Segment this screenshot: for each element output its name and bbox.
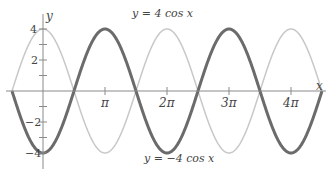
- x-tick-label-3pi: 3π: [221, 96, 238, 110]
- y-tick-label-neg4: −4: [25, 147, 41, 160]
- x-tick-label-2pi: 2π: [158, 96, 176, 110]
- x-tick-label-pi: π: [100, 96, 110, 110]
- curve-label-neg4cos: y = −4 cos x: [143, 152, 215, 165]
- y-tick-label-2: 2: [31, 54, 38, 67]
- y-axis-label: y: [45, 9, 53, 23]
- y-tick-label-neg2: −2: [25, 116, 41, 129]
- cosine-chart: y x 4 2 −2 −4 π 2π 3π 4π y = 4 cos x y =…: [0, 0, 329, 173]
- y-tick-label-4: 4: [30, 23, 37, 36]
- x-tick-label-4pi: 4π: [282, 96, 300, 110]
- x-axis-label: x: [316, 79, 323, 93]
- curve-label-4cos: y = 4 cos x: [131, 7, 194, 20]
